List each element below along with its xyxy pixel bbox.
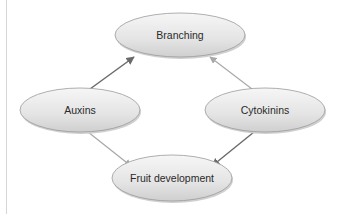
arrow-cytokinins-to-fruit-development xyxy=(212,132,254,166)
node-label: Fruit development xyxy=(130,172,214,184)
arrow-auxins-to-branching xyxy=(90,57,134,89)
hormone-interaction-diagram: Branching Auxins Cytokinins Fruit develo… xyxy=(0,0,337,214)
node-cytokinins: Cytokinins xyxy=(205,88,326,134)
arrow-cytokinins-to-branching xyxy=(210,57,252,89)
arrow-auxins-to-fruit-development xyxy=(88,132,131,166)
node-fruit-development: Fruit development xyxy=(112,155,233,203)
node-label: Branching xyxy=(156,29,203,41)
node-label: Cytokinins xyxy=(241,104,289,116)
node-auxins: Auxins xyxy=(20,88,141,134)
node-label: Auxins xyxy=(64,104,96,116)
node-branching: Branching xyxy=(115,13,246,59)
